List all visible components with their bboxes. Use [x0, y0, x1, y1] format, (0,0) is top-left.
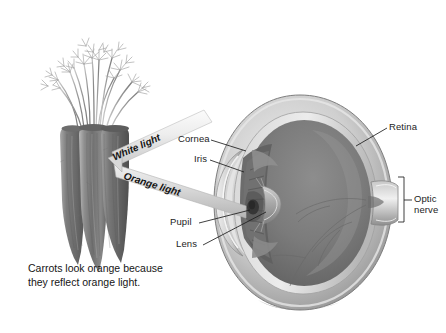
- label-cornea: Cornea: [178, 133, 210, 144]
- carrots: [60, 124, 129, 272]
- eyeball-diagram: [214, 95, 398, 310]
- figure-canvas: Cornea Iris Pupil Lens Retina Optic nerv…: [0, 0, 446, 333]
- figure-caption: Carrots look orange because they reflect…: [28, 262, 163, 289]
- label-pupil: Pupil: [170, 216, 192, 227]
- label-retina: Retina: [389, 121, 417, 132]
- carrot-greens: [41, 38, 150, 130]
- label-iris: Iris: [194, 153, 207, 164]
- label-lens: Lens: [176, 238, 197, 249]
- label-optic-nerve: Optic nerve: [414, 193, 438, 215]
